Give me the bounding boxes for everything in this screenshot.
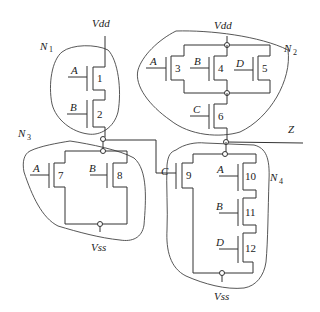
t10-gate-label: A <box>216 163 224 175</box>
t7-number: 7 <box>58 169 64 181</box>
t5-gate-label: D <box>235 57 244 69</box>
t11-number: 11 <box>245 206 256 218</box>
n1-outline <box>50 46 119 135</box>
t3-number: 3 <box>175 62 181 74</box>
vdd-label-right: Vdd <box>214 19 232 31</box>
t12-gate-label: D <box>215 236 224 248</box>
n2-sub: 2 <box>293 48 297 57</box>
t7-gate-label: A <box>32 162 40 174</box>
t8-gate-label: B <box>89 162 96 174</box>
t1-gate-label: A <box>70 64 78 76</box>
t2-gate-label: B <box>70 101 77 113</box>
t11-gate-label: B <box>216 200 223 212</box>
n2-label: N <box>283 42 292 54</box>
n2-outline <box>137 31 288 135</box>
t4-number: 4 <box>218 62 224 74</box>
t9-gate-label: C <box>161 165 169 177</box>
t2-number: 2 <box>97 108 103 120</box>
t4-gate-label: B <box>194 55 201 67</box>
t9-number: 9 <box>186 169 192 181</box>
output-z-label: Z <box>288 123 295 135</box>
vss-label-right: Vss <box>214 290 229 302</box>
n1-sub: 1 <box>49 45 53 54</box>
t3-gate-label: A <box>149 55 157 67</box>
n3-sub: 3 <box>27 133 31 142</box>
n1-label: N <box>39 40 48 52</box>
t12-number: 12 <box>245 242 256 254</box>
t8-number: 8 <box>117 169 123 181</box>
circuit-svg: Vdd Vdd Vss Vss Z N 1 N 2 N 3 N 4 1 2 3 … <box>0 0 320 312</box>
n4-sub: 4 <box>279 177 283 186</box>
circuit-diagram: Vdd Vdd Vss Vss Z N 1 N 2 N 3 N 4 1 2 3 … <box>0 0 320 312</box>
n3-label: N <box>17 127 26 139</box>
t10-number: 10 <box>245 170 257 182</box>
t1-number: 1 <box>97 72 103 84</box>
t6-gate-label: C <box>193 103 201 115</box>
t5-number: 5 <box>262 62 268 74</box>
vss-label-left: Vss <box>91 241 106 253</box>
n4-label: N <box>269 171 278 183</box>
t6-number: 6 <box>218 110 224 122</box>
vdd-label-left: Vdd <box>92 17 110 29</box>
